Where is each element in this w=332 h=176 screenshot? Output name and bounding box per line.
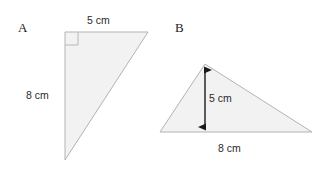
dimension-label-a-left: 8 cm (26, 89, 49, 101)
shape-label-a: A (18, 20, 28, 35)
dimension-label-a-top: 5 cm (87, 14, 110, 26)
shape-group-a: A 5 cm 8 cm (18, 14, 148, 160)
triangle-b-body (160, 64, 312, 132)
dimension-label-b-height: 5 cm (209, 92, 232, 104)
triangle-a-body (65, 32, 148, 160)
dimension-label-b-base: 8 cm (218, 142, 241, 154)
shape-label-b: B (175, 20, 184, 35)
shape-group-b: B 5 cm 8 cm (160, 20, 312, 154)
geometry-figure-canvas: A 5 cm 8 cm B 5 cm 8 cm (0, 0, 332, 176)
geometry-figure-svg: A 5 cm 8 cm B 5 cm 8 cm (0, 0, 332, 176)
